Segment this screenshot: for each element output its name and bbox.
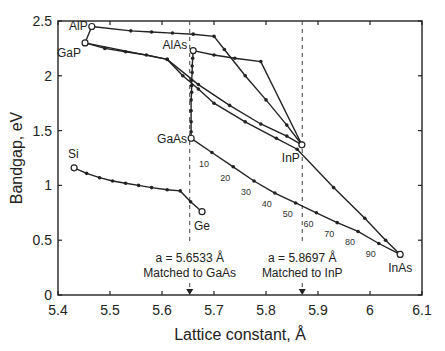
composition-dot: [210, 151, 214, 155]
composition-dot: [377, 242, 381, 246]
material-label-alp: AlP: [69, 19, 88, 33]
composition-label: 10: [199, 159, 209, 169]
composition-dot: [178, 189, 182, 193]
material-label-ge: Ge: [194, 219, 210, 233]
composition-dot: [189, 120, 193, 124]
curve-gap-inas: [85, 43, 400, 255]
annotation-lattice-value: a = 5.8697 Å: [268, 250, 336, 265]
composition-dot: [190, 90, 194, 94]
composition-dot: [190, 71, 194, 75]
composition-dot: [212, 35, 216, 39]
composition-dot: [189, 109, 193, 113]
x-tick-label: 6.1: [412, 302, 432, 318]
lattice-match-triangle: [299, 289, 306, 295]
x-tick-label: 5.9: [308, 302, 328, 318]
y-tick-label: 1.5: [33, 123, 53, 139]
composition-label: 80: [345, 237, 355, 247]
composition-dot: [111, 179, 115, 183]
y-axis-title: Bandgap, eV: [8, 111, 25, 204]
composition-dot: [189, 130, 193, 134]
composition-dot: [384, 238, 388, 242]
x-tick-label: 6: [366, 302, 374, 318]
composition-dot: [363, 216, 367, 220]
composition-dot: [212, 53, 216, 57]
x-tick-label: 5.6: [152, 302, 172, 318]
composition-dot: [191, 32, 195, 36]
composition-dot: [145, 53, 149, 57]
curve-si-ge: [74, 168, 202, 212]
composition-dot: [332, 186, 336, 190]
composition-dot: [294, 201, 298, 205]
material-label-inas: InAs: [388, 261, 412, 275]
composition-dot: [243, 120, 247, 124]
composition-dot: [275, 136, 279, 140]
x-tick-label: 5.4: [48, 302, 68, 318]
annotation-matched-to: Matched to GaAs: [143, 266, 236, 280]
material-point-inp: [299, 142, 305, 148]
composition-dot: [223, 48, 227, 52]
composition-label: 70: [324, 229, 334, 239]
material-label-gap: GaP: [57, 46, 81, 60]
composition-dot: [137, 184, 141, 188]
composition-dot: [335, 221, 339, 225]
composition-dot: [273, 191, 277, 195]
composition-dot: [252, 179, 256, 183]
composition-dot: [285, 134, 289, 138]
alloy-curves: [74, 27, 400, 255]
y-tick-label: 0: [44, 287, 52, 303]
composition-dot: [124, 181, 128, 185]
y-tick-label: 1: [44, 177, 52, 193]
composition-dot: [259, 122, 263, 126]
composition-dot: [243, 74, 247, 78]
curve-alp-inp: [92, 27, 302, 145]
composition-dot: [189, 98, 193, 102]
y-tick-label: 2.5: [33, 13, 53, 29]
composition-dot: [171, 31, 175, 35]
composition-label: 60: [303, 219, 313, 229]
annotation-lattice-value: a = 5.6533 Å: [156, 250, 224, 265]
composition-dot: [129, 29, 133, 33]
composition-dot: [228, 104, 232, 108]
y-tick-label: 0.5: [33, 232, 53, 248]
composition-dot: [264, 98, 268, 102]
material-point-alp: [89, 23, 95, 29]
composition-dot: [197, 83, 201, 87]
composition-dot: [233, 56, 237, 60]
composition-dot: [98, 176, 102, 180]
material-point-gap: [82, 40, 88, 46]
material-point-gaas: [188, 135, 194, 141]
x-tick-label: 5.5: [100, 302, 120, 318]
composition-dot: [315, 211, 319, 215]
composition-dot: [197, 87, 201, 91]
composition-dot: [165, 58, 169, 62]
material-label-gaas: GaAs: [157, 132, 187, 146]
composition-dot: [190, 84, 194, 88]
x-tick-label: 5.7: [204, 302, 224, 318]
material-point-inas: [397, 251, 403, 257]
composition-dot: [150, 186, 154, 190]
material-point-alas: [190, 48, 196, 54]
composition-dot: [85, 172, 89, 176]
x-axis-title: Lattice constant, Å: [174, 325, 306, 343]
material-point-si: [71, 165, 77, 171]
composition-label: 90: [366, 249, 376, 259]
material-label-si: Si: [68, 147, 79, 161]
annotation-matched-to: Matched to InP: [262, 266, 343, 280]
lattice-match-triangle: [186, 289, 193, 295]
curve-alas-gaas: [191, 51, 193, 139]
bandgap-lattice-chart: 5.45.55.65.75.85.966.100.511.522.5 a = 5…: [0, 0, 445, 351]
curve-alas-inp: [193, 51, 302, 145]
composition-dot: [191, 56, 195, 60]
composition-dot: [103, 47, 107, 51]
composition-dot: [181, 74, 185, 78]
material-label-inp: InP: [282, 151, 300, 165]
composition-dot: [165, 188, 169, 192]
x-tick-label: 5.8: [256, 302, 276, 318]
composition-dot: [285, 123, 289, 127]
composition-dot: [231, 165, 235, 169]
y-tick-label: 2: [44, 68, 52, 84]
composition-dot: [259, 60, 263, 64]
composition-label: 50: [283, 209, 293, 219]
composition-dot: [190, 64, 194, 68]
composition-dot: [212, 101, 216, 105]
